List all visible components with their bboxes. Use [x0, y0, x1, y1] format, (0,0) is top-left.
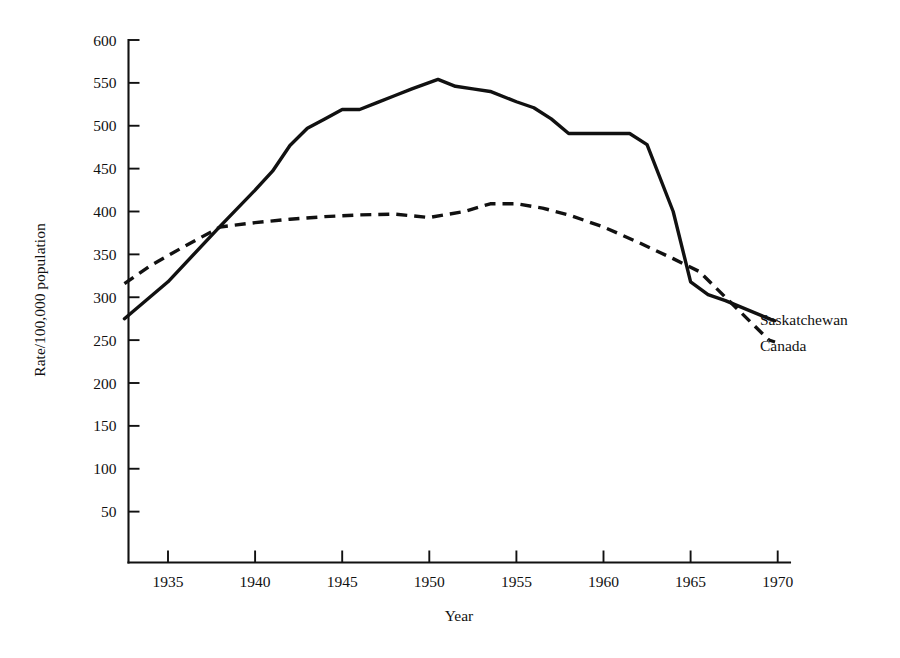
y-axis-ticks	[129, 40, 140, 512]
y-axis-tick-labels: 50100150200250300350400450500550600	[93, 32, 117, 521]
y-tick-label-450: 450	[93, 160, 117, 177]
x-axis-ticks	[168, 551, 778, 563]
x-tick-label-1970: 1970	[762, 573, 793, 590]
x-tick-label-1940: 1940	[240, 573, 271, 590]
y-tick-label-50: 50	[101, 503, 117, 520]
chart-container: 50100150200250300350400450500550600 1935…	[0, 0, 900, 658]
x-tick-label-1965: 1965	[675, 573, 706, 590]
y-tick-label-500: 500	[93, 117, 117, 134]
x-tick-label-1950: 1950	[414, 573, 445, 590]
x-tick-label-1945: 1945	[327, 573, 358, 590]
plot-area	[124, 79, 769, 340]
x-axis-tick-labels: 19351940194519501955196019651970	[153, 573, 794, 590]
series-label-saskatchewan: Saskatchewan	[760, 311, 848, 328]
x-tick-label-1955: 1955	[501, 573, 532, 590]
line-chart: 50100150200250300350400450500550600 1935…	[0, 0, 900, 658]
y-tick-label-550: 550	[93, 74, 117, 91]
y-tick-label-400: 400	[93, 203, 117, 220]
y-tick-label-200: 200	[93, 375, 117, 392]
y-tick-label-100: 100	[93, 460, 117, 477]
y-axis-title: Rate/100,000 population	[31, 223, 48, 377]
y-tick-label-600: 600	[93, 32, 117, 49]
series-line-saskatchewan	[124, 79, 769, 318]
y-tick-label-350: 350	[93, 246, 117, 263]
x-tick-label-1960: 1960	[588, 573, 619, 590]
x-axis-title: Year	[445, 607, 474, 624]
x-axis: 19351940194519501955196019651970	[129, 551, 794, 590]
y-tick-label-250: 250	[93, 332, 117, 349]
series-label-canada: Canada	[760, 337, 807, 354]
series-callouts: Saskatchewan Canada	[760, 311, 848, 354]
y-tick-label-300: 300	[93, 289, 117, 306]
x-tick-label-1935: 1935	[153, 573, 184, 590]
y-axis: 50100150200250300350400450500550600	[93, 32, 139, 563]
y-tick-label-150: 150	[93, 417, 117, 434]
